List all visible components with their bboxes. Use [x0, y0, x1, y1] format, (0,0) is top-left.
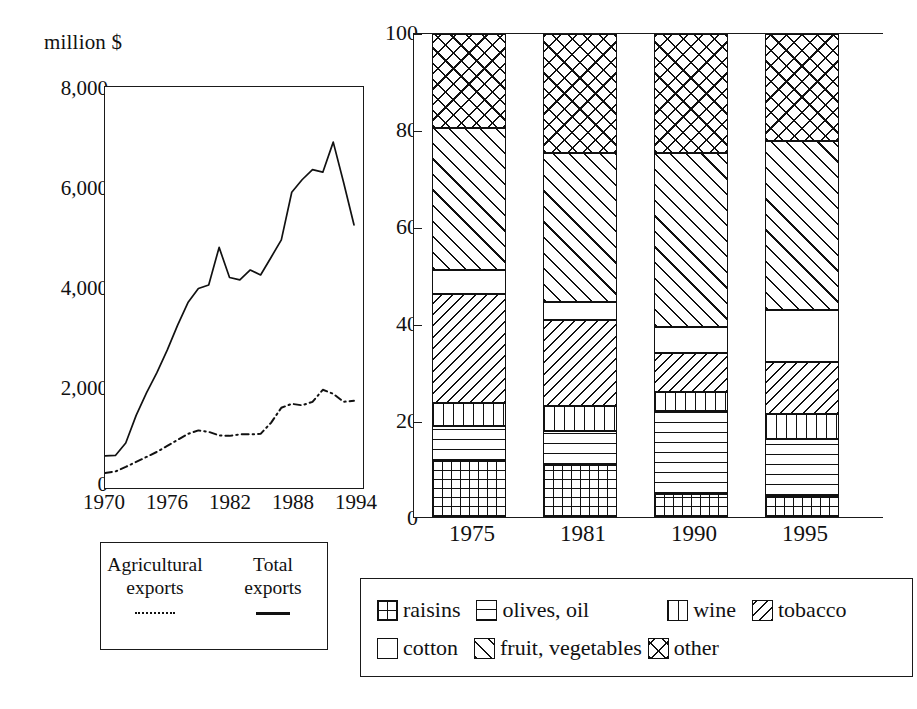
swatch-tobacco-icon	[752, 600, 773, 621]
bar-segment-fruit-vegetables-1990	[654, 153, 728, 326]
bar-segment-tobacco-1975	[432, 294, 506, 403]
legend-agricultural-line1: Agricultural	[105, 554, 205, 577]
bar-stack-1995[interactable]	[765, 34, 839, 517]
legend-item-tobacco: tobacco	[752, 599, 846, 621]
line-chart-x-tick-labels: 1970 1976 1982 1988 1994	[80, 492, 390, 522]
legend-total-line2: exports	[223, 577, 323, 600]
bar-segment-wine-1995	[765, 414, 839, 440]
legend-label-other: other	[674, 637, 719, 659]
legend-item-other: other	[648, 637, 719, 659]
bar-ytick-60: 60	[362, 216, 418, 238]
bar-ytick-20: 20	[362, 410, 418, 432]
line-chart-plot-area	[104, 86, 364, 489]
legend-item-fruit-vegetables: fruit, vegetables	[474, 637, 642, 659]
legend-label-wine: wine	[693, 599, 736, 621]
bar-segment-raisins-1995	[765, 496, 839, 517]
bar-ytick-40: 40	[362, 313, 418, 335]
line-ytick-2000: 2,000	[24, 378, 108, 399]
legend-total-exports-label: Total exports	[223, 554, 323, 599]
legend-item-raisins: raisins	[377, 599, 460, 621]
bar-segment-other-1990	[654, 34, 728, 153]
legend-label-fruit-vegetables: fruit, vegetables	[500, 637, 642, 659]
bar-segment-raisins-1981	[543, 465, 617, 517]
bar-xtick-1975: 1975	[427, 522, 517, 545]
line-ytick-4000: 4,000	[24, 278, 108, 299]
legend-dash-dot-line-icon	[105, 605, 205, 621]
legend-label-raisins: raisins	[403, 599, 460, 621]
bar-stack-1981[interactable]	[543, 34, 617, 517]
legend-item-cotton: cotton	[377, 637, 458, 659]
bar-chart-x-tick-labels: 1975 1981 1990 1995	[413, 522, 883, 556]
bar-segment-raisins-1975	[432, 461, 506, 517]
bar-segment-wine-1975	[432, 403, 506, 427]
line-ytick-6000: 6,000	[24, 178, 108, 199]
bar-segment-fruit-vegetables-1995	[765, 141, 839, 310]
legend-agricultural-exports-label: Agricultural exports	[105, 554, 205, 599]
bar-segment-cotton-1990	[654, 327, 728, 353]
bar-segment-olives-oil-1981	[543, 431, 617, 466]
legend-item-wine: wine	[667, 599, 736, 621]
bar-segment-cotton-1995	[765, 310, 839, 363]
bar-ytick-100: 100	[362, 22, 418, 44]
bar-xtick-1981: 1981	[538, 522, 628, 545]
line-chart-svg	[105, 87, 363, 488]
bar-segment-tobacco-1990	[654, 353, 728, 393]
bar-segment-other-1981	[543, 34, 617, 153]
series-total-exports-line	[105, 142, 354, 456]
chart-page: million $ 8,000 6,000 4,000 2,000 0 1970…	[0, 0, 917, 709]
line-chart-legend: Agricultural exports Total exports	[100, 542, 328, 650]
bar-legend-row-1: raisins olives, oil wine tobacco	[377, 591, 896, 629]
bar-segment-cotton-1975	[432, 270, 506, 294]
bar-segment-wine-1990	[654, 392, 728, 411]
legend-label-olives-oil: olives, oil	[502, 599, 589, 621]
bar-xtick-1990: 1990	[649, 522, 739, 545]
bar-segment-fruit-vegetables-1975	[432, 128, 506, 270]
bar-segment-tobacco-1981	[543, 320, 617, 406]
stacked-bar-chart-panel: 100 80 60 40 20 0 1975 1981 1990 1995	[360, 0, 917, 709]
line-ytick-8000: 8,000	[24, 78, 108, 99]
swatch-other-icon	[648, 638, 669, 659]
line-chart-panel: million $ 8,000 6,000 4,000 2,000 0 1970…	[0, 0, 380, 540]
bar-segment-other-1995	[765, 34, 839, 141]
swatch-olives-oil-icon	[476, 600, 497, 621]
line-xtick-1970: 1970	[74, 492, 134, 513]
line-chart-y-tick-labels: 8,000 6,000 4,000 2,000 0	[0, 0, 108, 540]
bar-chart-plot-area	[413, 33, 883, 518]
bar-segment-olives-oil-1990	[654, 411, 728, 494]
bar-stack-1990[interactable]	[654, 34, 728, 517]
legend-label-cotton: cotton	[403, 637, 458, 659]
bar-chart-legend: raisins olives, oil wine tobacco	[360, 578, 913, 677]
bar-ytick-0: 0	[362, 507, 418, 529]
legend-label-tobacco: tobacco	[778, 599, 846, 621]
bar-segment-raisins-1990	[654, 494, 728, 517]
bar-segment-fruit-vegetables-1981	[543, 153, 617, 302]
swatch-fruit-vegetables-icon	[474, 638, 495, 659]
bar-segment-other-1975	[432, 34, 506, 128]
line-xtick-1988: 1988	[263, 492, 323, 513]
legend-solid-line-icon	[223, 605, 323, 621]
legend-item-olives-oil: olives, oil	[476, 599, 589, 621]
swatch-raisins-icon	[377, 600, 398, 621]
bar-segment-olives-oil-1975	[432, 426, 506, 461]
bar-xtick-1995: 1995	[760, 522, 850, 545]
line-xtick-1982: 1982	[200, 492, 260, 513]
bar-stack-1975[interactable]	[432, 34, 506, 517]
legend-total-line1: Total	[223, 554, 323, 577]
bar-chart-y-tick-labels: 100 80 60 40 20 0	[360, 0, 418, 540]
bar-segment-wine-1981	[543, 406, 617, 431]
bar-segment-cotton-1981	[543, 302, 617, 320]
bar-stacks-container	[414, 34, 883, 517]
bar-ytick-80: 80	[362, 119, 418, 141]
bar-segment-olives-oil-1995	[765, 439, 839, 496]
swatch-cotton-icon	[377, 638, 398, 659]
bar-segment-tobacco-1995	[765, 362, 839, 413]
swatch-wine-icon	[667, 600, 688, 621]
legend-agricultural-line2: exports	[105, 577, 205, 600]
line-xtick-1976: 1976	[137, 492, 197, 513]
bar-legend-row-2: cotton fruit, vegetables other	[377, 629, 896, 667]
